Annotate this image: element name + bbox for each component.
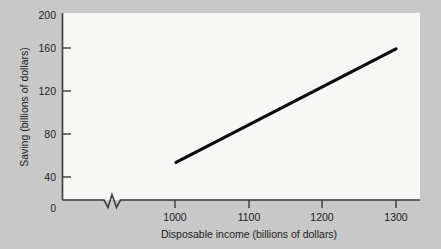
x-tick-label-1100: 1100	[238, 211, 261, 223]
x-tick-label-1000: 1000	[163, 211, 187, 223]
y-tick-label-80: 80	[44, 128, 56, 140]
y-axis-title: Saving (billions of dollars)	[18, 47, 30, 167]
y-tick-label-200: 200	[38, 9, 56, 21]
x-tick-label-1200: 1200	[310, 211, 334, 223]
saving-function-chart: 200 160 120 80 40 0 1000 1100 1200 1300 …	[0, 0, 441, 249]
y-tick-label-0: 0	[50, 202, 56, 214]
plot-area-background	[62, 13, 420, 200]
y-tick-label-120: 120	[38, 85, 56, 97]
figure-container: 200 160 120 80 40 0 1000 1100 1200 1300 …	[0, 0, 441, 249]
y-tick-label-40: 40	[44, 171, 56, 183]
x-tick-label-1300: 1300	[384, 211, 408, 223]
y-tick-label-160: 160	[38, 42, 56, 54]
x-axis-title: Disposable income (billions of dollars)	[161, 228, 337, 240]
